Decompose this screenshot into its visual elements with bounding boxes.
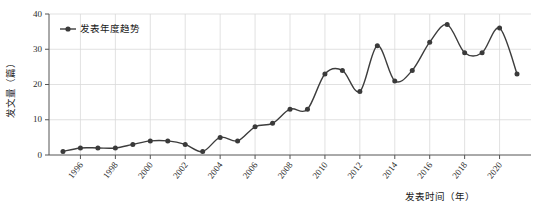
data-point-marker <box>427 40 432 45</box>
y-tick-label: 20 <box>33 79 43 89</box>
data-point-marker <box>462 50 467 55</box>
data-point-marker <box>95 145 100 150</box>
data-point-marker <box>305 107 310 112</box>
data-point-marker <box>78 145 83 150</box>
data-point-marker <box>445 22 450 27</box>
x-axis-ticks: 1996199820002002200420062008201020122014… <box>66 155 504 180</box>
data-point-marker <box>410 68 415 73</box>
data-point-marker <box>497 26 502 31</box>
data-point-marker <box>480 50 485 55</box>
data-point-marker <box>375 43 380 48</box>
data-point-marker <box>183 142 188 147</box>
x-tick-label: 1998 <box>101 160 120 181</box>
x-tick-label: 2016 <box>415 160 434 181</box>
data-point-marker <box>253 124 258 129</box>
x-tick-label: 2008 <box>276 160 295 181</box>
y-tick-label: 40 <box>33 9 43 19</box>
data-point-marker <box>322 71 327 76</box>
data-point-marker <box>340 68 345 73</box>
x-tick-label: 2010 <box>311 160 330 181</box>
y-axis-ticks: 010203040 <box>33 9 49 160</box>
data-point-marker <box>200 149 205 154</box>
data-point-marker <box>218 135 223 140</box>
x-tick-label: 2020 <box>485 160 504 181</box>
x-tick-label: 2012 <box>345 160 364 180</box>
x-tick-label: 2004 <box>206 160 225 181</box>
data-point-marker <box>288 107 293 112</box>
data-point-marker <box>130 142 135 147</box>
x-tick-label: 1996 <box>66 160 85 181</box>
y-tick-label: 30 <box>33 44 43 54</box>
x-tick-label: 2014 <box>380 160 399 181</box>
x-tick-label: 2006 <box>241 160 260 181</box>
x-tick-label: 2018 <box>450 160 469 181</box>
data-point-marker <box>60 149 65 154</box>
chart-legend: 发表年度趋势 <box>60 23 140 34</box>
y-axis-title: 发文量（篇） <box>5 58 16 118</box>
data-point-marker <box>113 145 118 150</box>
x-axis-title: 发表时间（年） <box>405 191 475 202</box>
data-point-marker <box>357 89 362 94</box>
data-point-marker <box>270 121 275 126</box>
data-point-marker <box>165 138 170 143</box>
chart-container: 010203040 199619982000200220042006200820… <box>0 0 544 209</box>
x-tick-label: 2000 <box>136 160 155 181</box>
y-tick-label: 0 <box>38 150 43 160</box>
x-tick-label: 2002 <box>171 160 190 180</box>
y-tick-label: 10 <box>33 114 43 124</box>
legend-marker-sample <box>65 26 70 31</box>
data-point-marker <box>515 71 520 76</box>
line-chart: 010203040 199619982000200220042006200820… <box>0 0 544 209</box>
data-point-marker <box>235 138 240 143</box>
legend-entry-label: 发表年度趋势 <box>80 23 140 34</box>
data-point-marker <box>392 78 397 83</box>
data-point-marker <box>148 138 153 143</box>
